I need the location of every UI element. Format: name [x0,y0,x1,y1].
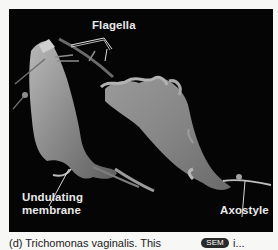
caption-badge: SEM [201,238,229,248]
label-undulating-membrane: Undulating membrane [22,191,83,217]
label-undulating-line1: Undulating [22,191,83,204]
caption-continuation: i... [233,237,245,250]
figure-caption: (d) Trichomonas vaginalis. This [9,237,161,250]
label-axostyle: Axostyle [220,204,269,217]
label-undulating-line2: membrane [22,204,83,217]
label-flagella: Flagella [92,19,136,32]
micrograph-panel: Flagella Undulating membrane Axostyle [9,9,273,232]
